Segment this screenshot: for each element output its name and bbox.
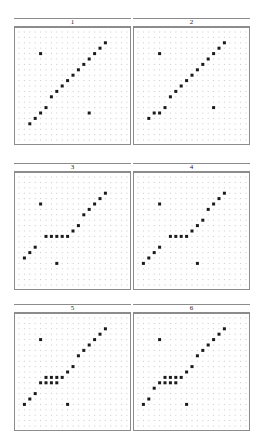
data-point [169, 381, 172, 384]
data-point [169, 235, 172, 238]
panel-strip-4: 4 [133, 163, 250, 172]
data-point [142, 262, 145, 265]
data-point [104, 41, 107, 44]
data-points [142, 192, 226, 265]
panel-strip-6: 6 [133, 304, 250, 313]
data-point [93, 338, 96, 341]
data-point [55, 235, 58, 238]
data-point [88, 58, 91, 61]
data-point [104, 327, 107, 330]
data-point [88, 112, 91, 115]
data-point [55, 90, 58, 93]
data-point [153, 251, 156, 254]
data-point [34, 117, 37, 120]
data-point [66, 235, 69, 238]
data-point [77, 68, 80, 71]
panel-5: 5 [14, 304, 131, 431]
panel-label: 2 [190, 19, 194, 26]
data-point [218, 197, 221, 200]
panel-label: 6 [190, 305, 194, 312]
data-point [223, 41, 226, 44]
data-point [158, 112, 161, 115]
data-point [223, 327, 226, 330]
panel-strip-3: 3 [14, 163, 131, 172]
data-point [50, 381, 53, 384]
data-point [196, 224, 199, 227]
data-point [93, 203, 96, 206]
data-point [34, 392, 37, 395]
panel-plot-area-3 [14, 172, 131, 290]
panel-label: 1 [71, 19, 75, 26]
panel-label: 5 [71, 305, 75, 312]
data-point [142, 403, 145, 406]
panel-plot-area-4 [133, 172, 250, 290]
panel-canvas [15, 173, 131, 290]
data-point [153, 112, 156, 115]
panel-strip-1: 1 [14, 18, 131, 27]
data-point [82, 349, 85, 352]
data-point [185, 403, 188, 406]
data-point [66, 403, 69, 406]
data-point [158, 52, 161, 55]
panel-canvas [134, 28, 250, 145]
data-point [212, 203, 215, 206]
data-point [191, 365, 194, 368]
data-point [180, 376, 183, 379]
panel-6: 6 [133, 304, 250, 431]
data-point [99, 47, 102, 50]
data-point [50, 376, 53, 379]
data-point [158, 203, 161, 206]
data-points [23, 192, 107, 265]
data-point [45, 376, 48, 379]
data-point [201, 219, 204, 222]
data-point [39, 112, 42, 115]
data-point [50, 235, 53, 238]
data-point [207, 208, 210, 211]
panel-plot-area-5 [14, 313, 131, 431]
data-point [147, 117, 150, 120]
data-point [185, 79, 188, 82]
data-point [164, 376, 167, 379]
data-point [201, 63, 204, 66]
panel-label: 4 [190, 164, 194, 171]
data-point [212, 52, 215, 55]
panel-strip-2: 2 [133, 18, 250, 27]
panel-plot-area-1 [14, 27, 131, 145]
data-point [191, 74, 194, 77]
data-point [93, 52, 96, 55]
panel-canvas [15, 28, 131, 145]
data-point [23, 403, 26, 406]
data-point [174, 376, 177, 379]
panel-1: 1 [14, 18, 131, 145]
data-point [39, 203, 42, 206]
data-point [147, 257, 150, 260]
panel-canvas [15, 314, 131, 431]
panel-3: 3 [14, 163, 131, 290]
data-point [169, 376, 172, 379]
data-point [223, 192, 226, 195]
data-point [212, 338, 215, 341]
data-point [45, 235, 48, 238]
data-point [82, 63, 85, 66]
data-point [153, 387, 156, 390]
data-point [66, 371, 69, 374]
data-point [72, 230, 75, 233]
data-point [164, 381, 167, 384]
data-point [61, 85, 64, 88]
data-point [61, 235, 64, 238]
data-point [158, 338, 161, 341]
data-point [169, 95, 172, 98]
data-point [77, 354, 80, 357]
panel-canvas [134, 314, 250, 431]
data-point [212, 106, 215, 109]
data-point [207, 58, 210, 61]
data-point [55, 381, 58, 384]
grid-dots [138, 318, 247, 427]
data-point [45, 381, 48, 384]
data-point [218, 47, 221, 50]
data-point [174, 235, 177, 238]
grid-dots [19, 318, 128, 427]
data-point [72, 74, 75, 77]
data-points [147, 41, 226, 120]
data-point [185, 235, 188, 238]
